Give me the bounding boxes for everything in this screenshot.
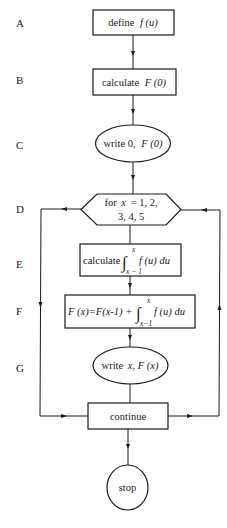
svg-text:f (u) du: f (u) du <box>154 306 185 318</box>
arrow-down-icon <box>131 175 135 180</box>
arrow-right-icon <box>61 414 67 418</box>
svg-text:x−1: x−1 <box>139 319 152 328</box>
row-label-b: B <box>16 74 23 86</box>
svg-text:for x = 1, 2,: for x = 1, 2, <box>104 197 157 208</box>
svg-text:define f (u): define f (u) <box>108 17 158 29</box>
svg-text:write 0, F (0): write 0, F (0) <box>104 138 163 150</box>
arrow-down-icon <box>39 302 43 308</box>
node-f-accumulate: F (x)=F(x-1) + ∫ x x−1 f (u) du <box>65 295 195 328</box>
svg-text:x: x <box>146 296 151 305</box>
node-b-calculate: calculate F (0) <box>93 69 176 95</box>
arrow-down-icon <box>131 109 135 114</box>
arrow-down-icon <box>128 335 132 340</box>
row-label-g: G <box>16 362 24 374</box>
node-continue: continue <box>88 403 168 429</box>
svg-text:write x, F (x): write x, F (x) <box>102 360 159 372</box>
node-c-write: write 0, F (0) <box>96 125 171 162</box>
node-a-define: define f (u) <box>93 10 174 35</box>
svg-text:x: x <box>131 245 136 254</box>
svg-text:calculate F (0): calculate F (0) <box>102 77 167 89</box>
row-label-d: D <box>16 203 24 215</box>
svg-text:stop: stop <box>119 482 137 493</box>
svg-text:x − 1: x − 1 <box>125 267 142 276</box>
row-labels: A B C D E F G <box>16 17 24 374</box>
node-g-write: write x, F (x) <box>93 347 168 384</box>
row-label-a: A <box>16 17 24 29</box>
svg-text:F (x)=F(x-1) +: F (x)=F(x-1) + <box>67 306 132 318</box>
node-stop: stop <box>107 465 148 510</box>
arrow-left-icon <box>201 208 207 212</box>
node-e-calculate-integral: calculate ∫ x x − 1 f (u) du <box>80 244 181 276</box>
arrow-down-icon <box>128 283 132 288</box>
svg-text:f (u) du: f (u) du <box>139 255 170 267</box>
node-d-for-loop: for x = 1, 2, 3, 4, 5 <box>81 194 181 225</box>
row-label-e: E <box>16 258 23 270</box>
arrow-down-icon <box>126 444 130 449</box>
svg-text:3, 4, 5: 3, 4, 5 <box>118 211 144 222</box>
row-label-c: C <box>16 139 23 151</box>
arrow-up-icon <box>218 304 222 310</box>
arrow-left-icon <box>61 207 67 211</box>
svg-text:calculate: calculate <box>83 255 121 266</box>
arrow-down-icon <box>131 51 135 56</box>
flowchart: A B C D E F G <box>0 0 227 528</box>
arrow-right-icon <box>187 414 193 418</box>
svg-text:continue: continue <box>110 411 146 422</box>
row-label-f: F <box>16 305 22 317</box>
